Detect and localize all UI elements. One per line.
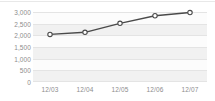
data-point-marker	[48, 32, 52, 36]
x-tick-label: 12/06	[135, 86, 175, 94]
data-point-marker	[83, 30, 87, 34]
top-divider	[0, 1, 215, 2]
data-series-line	[33, 12, 207, 82]
y-tick-label: 0	[0, 79, 31, 86]
y-tick-label: 500	[0, 67, 31, 74]
x-tick-label: 12/05	[100, 86, 140, 94]
y-tick-label: 2,500	[0, 21, 31, 28]
y-tick-label: 3,000	[0, 9, 31, 16]
data-point-marker	[188, 10, 192, 14]
x-axis-labels: 12/03 12/04 12/05 12/06 12/07	[33, 86, 207, 98]
line-chart-widget: 3,000 2,500 2,000 1,500 1,000 500 0 12/0…	[0, 0, 215, 101]
y-tick-label: 1,500	[0, 44, 31, 51]
y-tick-label: 2,000	[0, 32, 31, 39]
data-point-marker	[153, 14, 157, 18]
x-tick-label: 12/03	[30, 86, 70, 94]
x-tick-label: 12/07	[170, 86, 210, 94]
data-point-marker	[118, 21, 122, 25]
x-tick-label: 12/04	[65, 86, 105, 94]
y-axis-labels: 3,000 2,500 2,000 1,500 1,000 500 0	[0, 0, 31, 101]
y-tick-label: 1,000	[0, 56, 31, 63]
